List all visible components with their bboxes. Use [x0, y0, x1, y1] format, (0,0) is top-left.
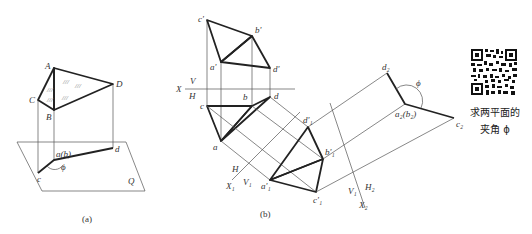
label-D: D: [115, 79, 123, 89]
proj1-c: [207, 106, 316, 192]
proj2-d: [308, 73, 387, 127]
label-Q: Q: [128, 176, 135, 186]
label-c-prime: c': [198, 14, 205, 24]
figure-a: /// /// /// /// /// A D C B a(b) d c ϕ Q…: [17, 61, 145, 224]
hatch: ///: [46, 86, 54, 94]
label-C: C: [29, 95, 36, 105]
hatch: ///: [61, 94, 69, 102]
label-X1: X₁: [225, 181, 235, 191]
label-H2: H₂: [364, 182, 375, 192]
hatch: ///: [74, 82, 82, 90]
proj1-b: [252, 106, 323, 159]
label-phi-b: ϕ: [416, 78, 421, 88]
label-A: A: [44, 61, 51, 71]
label-c1-prime: c'₁: [313, 195, 322, 205]
qr-code[interactable]: [470, 48, 518, 96]
label-a-prime: a': [210, 62, 218, 72]
label-c: c: [37, 174, 41, 184]
label-V1-x2: V₁: [348, 186, 357, 196]
figure-b: c' b' a' d' V X H c b d a H X₁ V₁ d'₁ b'…: [175, 14, 463, 219]
label-a2b2: a₂(b₂): [395, 109, 416, 119]
label-H-x1: H: [231, 164, 239, 174]
label-B: B: [46, 112, 52, 122]
label-c: c: [200, 101, 204, 111]
edge-view: [38, 148, 113, 173]
label-d1-prime: d'₁: [303, 115, 313, 125]
label-d: d: [115, 144, 120, 154]
qr-caption-line2: 夹角 ϕ: [458, 121, 532, 136]
hatch: ///: [46, 96, 54, 104]
label-H: H: [188, 91, 196, 101]
hatch: ///: [62, 78, 70, 86]
label-X: X: [175, 84, 182, 94]
label-d-prime: d': [273, 64, 281, 74]
plane-abd: [54, 68, 113, 110]
label-X2: X₂: [358, 200, 368, 210]
label-b1-prime: b'₁: [325, 147, 335, 157]
label-V1: V₁: [243, 177, 252, 187]
aux1-bca: [270, 159, 323, 192]
label-b: b: [243, 92, 248, 102]
proj1-a: [221, 141, 270, 180]
label-a1-prime: a'₁: [261, 181, 271, 191]
top-bda: [221, 97, 270, 141]
front-bda: [221, 36, 270, 68]
qr-caption-line1: 求两平面的: [458, 104, 532, 119]
label-b-prime: b': [255, 25, 263, 35]
diagram-canvas: /// /// /// /// /// A D C B a(b) d c ϕ Q…: [0, 0, 532, 234]
label-ab: a(b): [56, 149, 71, 159]
label-V: V: [190, 76, 197, 86]
proj2-c: [316, 118, 454, 192]
label-phi: ϕ: [61, 162, 66, 172]
label-d: d: [274, 91, 279, 101]
caption-b: (b): [260, 209, 271, 219]
label-d2: d₂: [382, 62, 390, 72]
label-a: a: [213, 142, 218, 152]
caption-a: (a): [82, 214, 92, 224]
